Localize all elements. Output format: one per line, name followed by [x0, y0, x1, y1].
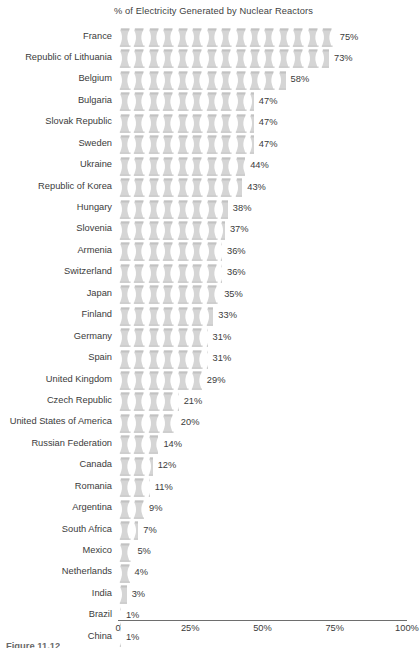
cooling-tower-icon — [219, 71, 233, 90]
row-bar-track: 36% — [118, 241, 407, 262]
chart-row: Spain31% — [0, 349, 420, 370]
row-category-label: India — [92, 588, 112, 599]
cooling-tower-icon — [161, 71, 175, 90]
row-category-label: Spain — [88, 352, 112, 363]
cooling-tower-icon — [118, 285, 132, 304]
row-bar-track: 58% — [118, 70, 407, 91]
row-value-label: 44% — [250, 160, 269, 171]
row-category-label: Republic of Lithuania — [25, 52, 112, 63]
cooling-tower-icon — [161, 49, 175, 68]
cooling-tower-icon — [161, 221, 175, 240]
row-icon-bar — [118, 157, 245, 176]
row-category-label: Hungary — [77, 202, 112, 213]
cooling-tower-icon — [132, 392, 146, 411]
cooling-tower-icon — [277, 28, 291, 47]
cooling-tower-icon — [147, 242, 161, 261]
cooling-tower-icon — [190, 28, 204, 47]
row-icon-bar — [118, 307, 213, 326]
row-value-label: 37% — [230, 224, 249, 235]
x-tick-label: 0 — [115, 623, 120, 633]
cooling-tower-icon — [176, 285, 190, 304]
cooling-tower-icon — [262, 28, 276, 47]
cooling-tower-icon — [205, 264, 219, 283]
row-category-label: United Kingdom — [46, 374, 112, 385]
cooling-tower-icon — [118, 221, 132, 240]
cooling-tower-icon — [132, 307, 146, 326]
row-icon-bar — [118, 28, 335, 47]
cooling-tower-icon — [190, 200, 204, 219]
cooling-tower-icon — [219, 28, 233, 47]
cooling-tower-icon — [205, 350, 208, 369]
cooling-tower-icon — [205, 92, 219, 111]
row-category-label: Germany — [74, 331, 112, 342]
chart-row: Ukraine44% — [0, 156, 420, 177]
cooling-tower-icon — [219, 92, 233, 111]
chart-row: Republic of Korea43% — [0, 177, 420, 198]
row-category-label: Mexico — [83, 545, 112, 556]
cooling-tower-icon — [147, 285, 161, 304]
cooling-tower-icon — [190, 264, 204, 283]
chart-rows: France75%Republic of Lithuania73%Belgium… — [0, 27, 420, 648]
cooling-tower-icon — [190, 157, 204, 176]
cooling-tower-icon — [132, 92, 146, 111]
cooling-tower-icon — [190, 135, 204, 154]
cooling-tower-icon — [118, 435, 132, 454]
row-icon-bar — [118, 543, 132, 562]
chart-row: Republic of Lithuania73% — [0, 48, 420, 69]
cooling-tower-icon — [118, 178, 132, 197]
row-icon-bar — [118, 71, 286, 90]
cooling-tower-icon — [147, 371, 161, 390]
cooling-tower-icon — [132, 478, 146, 497]
row-icon-bar — [118, 371, 202, 390]
cooling-tower-icon — [176, 242, 190, 261]
cooling-tower-icon — [132, 414, 146, 433]
cooling-tower-icon — [161, 328, 175, 347]
cooling-tower-icon — [161, 350, 175, 369]
cooling-tower-icon — [147, 435, 159, 454]
cooling-tower-icon — [132, 28, 146, 47]
cooling-tower-icon — [118, 350, 132, 369]
cooling-tower-icon — [118, 71, 132, 90]
cooling-tower-icon — [147, 478, 150, 497]
chart-row: Slovak Republic47% — [0, 113, 420, 134]
cooling-tower-icon — [161, 114, 175, 133]
row-bar-track: 31% — [118, 349, 407, 370]
cooling-tower-icon — [176, 157, 190, 176]
row-bar-track: 37% — [118, 220, 407, 241]
row-value-label: 4% — [135, 567, 148, 578]
row-category-label: United States of America — [10, 416, 112, 427]
pictogram-chart: % of Electricity Generated by Nuclear Re… — [0, 0, 420, 648]
row-value-label: 36% — [227, 267, 246, 278]
row-value-label: 11% — [155, 482, 173, 493]
cooling-tower-icon — [190, 71, 204, 90]
row-value-label: 38% — [233, 203, 252, 214]
cooling-tower-icon — [118, 92, 132, 111]
row-category-label: Finland — [82, 309, 113, 320]
cooling-tower-icon — [176, 114, 190, 133]
row-bar-track: 43% — [118, 177, 407, 198]
cooling-tower-icon — [132, 350, 146, 369]
cooling-tower-icon — [132, 371, 146, 390]
cooling-tower-icon — [205, 328, 208, 347]
cooling-tower-icon — [118, 264, 132, 283]
cooling-tower-icon — [205, 178, 219, 197]
cooling-tower-icon — [147, 157, 161, 176]
chart-row: Switzerland36% — [0, 263, 420, 284]
row-value-label: 5% — [137, 546, 150, 557]
cooling-tower-icon — [147, 200, 161, 219]
row-bar-track: 31% — [118, 327, 407, 348]
chart-row: Armenia36% — [0, 241, 420, 262]
cooling-tower-icon — [147, 71, 161, 90]
chart-row: Belgium58% — [0, 70, 420, 91]
cooling-tower-icon — [248, 114, 254, 133]
cooling-tower-icon — [147, 114, 161, 133]
row-bar-track: 29% — [118, 370, 407, 391]
row-value-label: 47% — [259, 96, 278, 107]
cooling-tower-icon — [147, 178, 161, 197]
cooling-tower-icon — [190, 285, 204, 304]
row-value-label: 12% — [158, 460, 177, 471]
cooling-tower-icon — [161, 200, 175, 219]
row-icon-bar — [118, 221, 225, 240]
cooling-tower-icon — [234, 92, 248, 111]
cooling-tower-icon — [219, 264, 222, 283]
